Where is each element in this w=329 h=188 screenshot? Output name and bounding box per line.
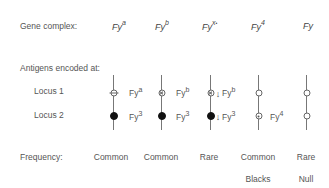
- locus1-label: Locus 1: [34, 86, 64, 96]
- down-arrow-icon: ↓: [216, 112, 221, 122]
- filled-circle-icon: [207, 112, 215, 120]
- chromosome-line-fy4: [258, 75, 259, 130]
- gene-fyx: Fyx•: [202, 20, 217, 32]
- gene-fyb: Fyb: [155, 20, 169, 32]
- open-circle-icon: [255, 90, 262, 97]
- frequency-fyb: Common: [144, 152, 178, 162]
- frequency-fy: Rare: [297, 152, 315, 162]
- circle-x-icon: [158, 90, 165, 97]
- frequency-label: Frequency:: [20, 152, 63, 162]
- gene-complex-label: Gene complex:: [20, 21, 77, 31]
- antigen-fy3-weak: Fy3: [222, 110, 235, 122]
- open-circle-icon: [303, 90, 310, 97]
- frequency-fy4: Common: [241, 152, 275, 162]
- antigen-fy4: Fy4: [270, 110, 283, 122]
- antigens-label: Antigens encoded at:: [20, 63, 100, 73]
- chromosome-line-fyx: [210, 75, 211, 130]
- antigen-fy3: Fy3: [176, 110, 189, 122]
- antigen-fyb: Fyb: [176, 86, 189, 98]
- circle-x-icon: [207, 90, 214, 97]
- gene-fy-null: Fy: [303, 21, 313, 31]
- note-fy4: Blacks: [245, 174, 270, 184]
- frequency-fyx: Rare: [200, 152, 218, 162]
- open-circle-bar-icon: [110, 90, 117, 97]
- chromosome-line-fyb: [161, 75, 162, 130]
- chromosome-line-fy: [306, 75, 307, 130]
- filled-circle-icon: [110, 112, 118, 120]
- chromosome-line-fya: [113, 75, 114, 130]
- down-arrow-icon: ↓: [216, 89, 221, 99]
- filled-circle-icon: [158, 112, 166, 120]
- antigen-fya: Fya: [129, 86, 142, 98]
- antigen-fyb-weak: Fyb: [222, 86, 235, 98]
- gene-fy4: Fy4: [251, 20, 265, 32]
- open-circle-icon: [303, 113, 310, 120]
- frequency-fya: Common: [94, 152, 128, 162]
- dotted-circle-icon: [255, 113, 262, 120]
- note-fy: Null: [299, 174, 314, 184]
- antigen-fy3: Fy3: [129, 110, 142, 122]
- gene-fya: Fya: [112, 20, 126, 32]
- locus2-label: Locus 2: [34, 110, 64, 120]
